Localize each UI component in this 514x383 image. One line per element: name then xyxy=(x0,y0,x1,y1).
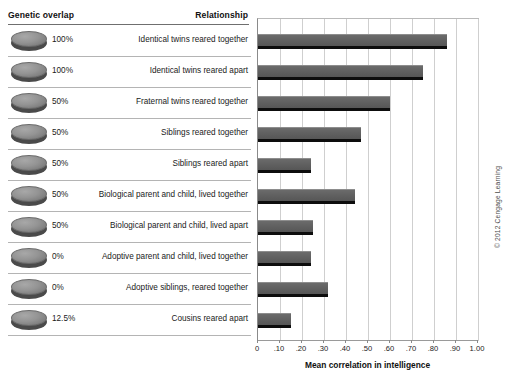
genetic-overlap-value: 12.5% xyxy=(52,314,75,323)
table-row: 100%Identical twins reared apart xyxy=(4,57,251,88)
x-axis-tick-label: .50 xyxy=(362,344,373,353)
bar xyxy=(258,282,328,294)
bar-shadow xyxy=(258,201,355,204)
x-axis-tick xyxy=(411,340,412,343)
bar xyxy=(258,127,361,139)
x-axis-tick-label: .60 xyxy=(384,344,395,353)
x-axis-tick xyxy=(323,340,324,343)
bar-row xyxy=(258,213,478,245)
gridline xyxy=(478,19,479,341)
table-row: 0%Adoptive siblings, reared together xyxy=(4,274,251,305)
bar xyxy=(258,313,291,325)
relationship-label: Identical twins reared together xyxy=(138,35,248,44)
table-row: 50%Biological parent and child, lived to… xyxy=(4,181,251,212)
table-row: 50%Siblings reared together xyxy=(4,119,251,150)
bar xyxy=(258,158,311,170)
heritability-intelligence-figure: Genetic overlap Relationship 100%Identic… xyxy=(0,0,514,383)
genetic-overlap-value: 50% xyxy=(52,190,68,199)
copyright-notice: © 2012 Cengage Learning xyxy=(494,166,501,248)
relationship-label: Identical twins reared apart xyxy=(150,66,248,75)
disc-top xyxy=(11,124,47,140)
genetic-overlap-value: 100% xyxy=(52,66,73,75)
bar-row xyxy=(258,244,478,276)
table-row: 100%Identical twins reared together xyxy=(4,26,251,57)
disc-top xyxy=(11,155,47,171)
table-row: 50%Fraternal twins reared together xyxy=(4,88,251,119)
bar-row xyxy=(258,306,478,338)
table-row: 50%Biological parent and child, lived ap… xyxy=(4,212,251,243)
bar xyxy=(258,34,447,46)
genetic-overlap-value: 0% xyxy=(52,252,64,261)
column-header-genetic-overlap: Genetic overlap xyxy=(8,10,74,20)
bar-row xyxy=(258,275,478,307)
row-divider xyxy=(8,335,251,336)
gray-disc-icon xyxy=(10,31,48,52)
genetic-overlap-table: Genetic overlap Relationship 100%Identic… xyxy=(0,0,252,383)
bar-shadow xyxy=(258,108,390,111)
bar-row xyxy=(258,182,478,214)
x-axis-tick-label: .40 xyxy=(340,344,351,353)
bar xyxy=(258,251,311,263)
x-axis-tick-label: .70 xyxy=(406,344,417,353)
x-axis-tick xyxy=(257,340,258,343)
x-axis-tick-label: .10 xyxy=(274,344,285,353)
relationship-label: Siblings reared together xyxy=(161,128,248,137)
bar-row xyxy=(258,27,478,59)
disc-top xyxy=(11,310,47,326)
x-axis-tick xyxy=(433,340,434,343)
genetic-overlap-value: 0% xyxy=(52,283,64,292)
bar-shadow xyxy=(258,263,311,266)
gray-disc-icon xyxy=(10,217,48,238)
table-row: 12.5%Cousins reared apart xyxy=(4,305,251,336)
disc-top xyxy=(11,62,47,78)
bar-shadow xyxy=(258,139,361,142)
x-axis-title: Mean correlation in intelligence xyxy=(257,360,478,370)
bar-shadow xyxy=(258,77,423,80)
bar-row xyxy=(258,58,478,90)
bar-shadow xyxy=(258,325,291,328)
mean-correlation-bar-chart xyxy=(252,0,514,383)
disc-top xyxy=(11,93,47,109)
x-axis-tick xyxy=(455,340,456,343)
disc-top xyxy=(11,31,47,47)
relationship-label: Biological parent and child, lived apart xyxy=(110,221,248,230)
gray-disc-icon xyxy=(10,93,48,114)
bar-shadow xyxy=(258,46,447,49)
genetic-overlap-value: 50% xyxy=(52,159,68,168)
x-axis-tick-label: 0 xyxy=(255,344,259,353)
bar-row xyxy=(258,89,478,121)
bar-row xyxy=(258,120,478,152)
table-row: 50%Siblings reared apart xyxy=(4,150,251,181)
relationship-label: Cousins reared apart xyxy=(172,314,248,323)
disc-top xyxy=(11,186,47,202)
x-axis-tick-label: .30 xyxy=(318,344,329,353)
x-axis-tick-label: .20 xyxy=(296,344,307,353)
x-axis-tick xyxy=(279,340,280,343)
table-row: 0%Adoptive parent and child, lived toget… xyxy=(4,243,251,274)
x-axis-tick-label: 1.00 xyxy=(470,344,485,353)
gray-disc-icon xyxy=(10,310,48,331)
genetic-overlap-value: 100% xyxy=(52,35,73,44)
column-header-relationship: Relationship xyxy=(195,10,248,20)
x-axis-tick xyxy=(477,340,478,343)
relationship-label: Adoptive parent and child, lived togethe… xyxy=(102,252,248,261)
genetic-overlap-value: 50% xyxy=(52,221,68,230)
bar-shadow xyxy=(258,232,313,235)
bar xyxy=(258,65,423,77)
gray-disc-icon xyxy=(10,248,48,269)
disc-top xyxy=(11,279,47,295)
disc-top xyxy=(11,217,47,233)
gray-disc-icon xyxy=(10,186,48,207)
x-axis-tick xyxy=(345,340,346,343)
relationship-label: Biological parent and child, lived toget… xyxy=(99,190,248,199)
plot-area xyxy=(257,18,479,341)
genetic-overlap-value: 50% xyxy=(52,128,68,137)
header-divider xyxy=(8,24,249,25)
disc-top xyxy=(11,248,47,264)
bar xyxy=(258,96,390,108)
gray-disc-icon xyxy=(10,155,48,176)
x-axis-tick-label: .80 xyxy=(428,344,439,353)
bar xyxy=(258,189,355,201)
gray-disc-icon xyxy=(10,279,48,300)
x-axis-tick xyxy=(389,340,390,343)
